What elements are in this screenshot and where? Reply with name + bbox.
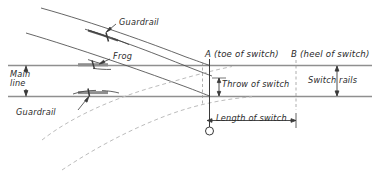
main-line-label-line2: line: [10, 78, 26, 88]
main-line-arrow-lower: [24, 91, 28, 96]
guardrail-upper-leader-arrow: [106, 27, 111, 32]
main-line-label: Main line: [10, 70, 30, 88]
switch-point-circle: [206, 127, 214, 135]
throw-arrow-top: [217, 78, 220, 82]
toe-of-switch-label: A (toe of switch): [205, 50, 279, 59]
throw-arrow-bottom: [217, 91, 220, 95]
guardrail-upper-label: Guardrail: [119, 18, 159, 27]
dashed-curve-upper: [42, 67, 232, 141]
guardrail-lower-marking: [73, 89, 119, 97]
switch-rails-arrow-bottom: [335, 91, 339, 96]
heel-of-switch-label: B (heel of switch): [291, 50, 370, 59]
guardrail-lower-leader: [78, 97, 89, 110]
frog-label: Frog: [113, 52, 132, 61]
guardrail-upper-flare: [85, 29, 108, 37]
switch-rails-label: Switch rails: [308, 76, 357, 85]
guardrail-lower-tick: [88, 89, 90, 97]
turnout-diagram: Guardrail Frog Main line Guardrail A (to…: [0, 0, 380, 174]
switch-rails-arrow-top: [335, 66, 339, 71]
dashed-curve-lower: [62, 97, 252, 170]
frog-flare-lower: [93, 68, 111, 69]
throw-of-switch-label: Throw of switch: [222, 80, 290, 89]
length-of-switch-label: Length of switch: [216, 114, 287, 123]
length-arrow-left: [207, 119, 212, 123]
guardrail-lower-label: Guardrail: [16, 108, 56, 117]
guardrail-lower-leader-arrow: [85, 97, 89, 103]
guardrail-upper-flare-2: [112, 38, 129, 44]
length-arrow-right: [291, 119, 296, 123]
diagram-canvas: [0, 0, 380, 174]
